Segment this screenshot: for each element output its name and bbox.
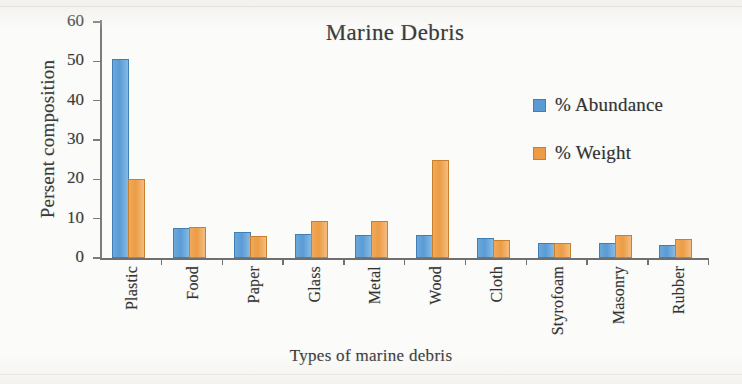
y-axis-tick-label: 20 xyxy=(44,168,84,188)
y-axis-tick-label: 40 xyxy=(44,90,84,110)
x-axis-label-masonry: Masonry xyxy=(610,266,628,384)
x-axis-tick xyxy=(282,258,283,265)
bar-metal-abundance xyxy=(355,235,372,258)
marine-debris-bar-chart: Marine Debris Persent composition 010203… xyxy=(0,0,742,384)
legend-entry-weight: % Weight xyxy=(533,143,723,163)
y-axis-tick-label: 60 xyxy=(44,11,84,31)
x-axis-label-rubber: Rubber xyxy=(670,266,688,384)
bar-paper-abundance xyxy=(234,232,251,258)
bar-cloth-weight xyxy=(493,240,510,258)
x-axis-label-glass: Glass xyxy=(306,266,324,384)
y-axis-tick-label: 10 xyxy=(44,208,84,228)
x-axis-label-metal: Metal xyxy=(366,266,384,384)
bar-wood-weight xyxy=(432,160,449,258)
x-axis-label-wood: Wood xyxy=(427,266,445,384)
bar-wood-abundance xyxy=(416,235,433,258)
y-axis-tick-label: 0 xyxy=(44,247,84,267)
bar-food-abundance xyxy=(173,228,190,258)
x-axis-tick xyxy=(586,258,587,265)
x-axis-tick xyxy=(161,258,162,265)
bar-rubber-weight xyxy=(675,239,692,258)
legend-label-weight: % Weight xyxy=(555,142,631,164)
x-axis-label-styrofoam: Styrofoam xyxy=(549,266,567,384)
x-axis-label-cloth: Cloth xyxy=(488,266,506,384)
chart-legend: % Abundance % Weight xyxy=(533,95,723,191)
legend-swatch-weight-icon xyxy=(533,147,546,160)
y-axis-tick-label: 50 xyxy=(44,50,84,70)
legend-entry-abundance: % Abundance xyxy=(533,95,723,115)
x-axis-tick xyxy=(465,258,466,265)
bar-plastic-abundance xyxy=(112,59,129,258)
x-axis-tick xyxy=(708,258,709,265)
bar-styrofoam-abundance xyxy=(538,243,555,258)
bar-glass-abundance xyxy=(295,234,312,258)
bar-rubber-abundance xyxy=(659,245,676,258)
x-axis-label-paper: Paper xyxy=(245,266,263,384)
x-axis-label-food: Food xyxy=(184,266,202,384)
bar-cloth-abundance xyxy=(477,238,494,258)
x-axis-tick xyxy=(647,258,648,265)
x-axis-title: Types of marine debris xyxy=(221,346,521,366)
bar-food-weight xyxy=(189,227,206,259)
x-axis-tick xyxy=(526,258,527,265)
x-axis-label-plastic: Plastic xyxy=(123,266,141,384)
scan-artifact-line-top xyxy=(0,6,742,7)
bar-styrofoam-weight xyxy=(554,243,571,258)
legend-swatch-abundance-icon xyxy=(533,99,546,112)
bar-paper-weight xyxy=(250,236,267,258)
x-axis-tick xyxy=(343,258,344,265)
x-axis-tick xyxy=(404,258,405,265)
bar-glass-weight xyxy=(311,221,328,258)
x-axis-tick xyxy=(222,258,223,265)
bar-masonry-abundance xyxy=(599,243,616,258)
legend-label-abundance: % Abundance xyxy=(555,94,663,116)
bar-masonry-weight xyxy=(615,235,632,258)
bar-metal-weight xyxy=(371,221,388,258)
y-axis-tick-label: 30 xyxy=(44,129,84,149)
bar-plastic-weight xyxy=(128,179,145,258)
